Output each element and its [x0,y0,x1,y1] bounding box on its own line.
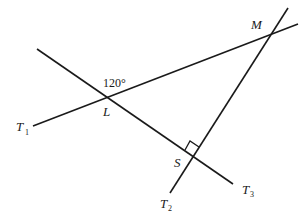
point-label-m: M [250,17,263,32]
svg-text:T: T [160,196,168,211]
point-label-l: L [102,104,110,119]
right-angle-marker [185,141,199,150]
line-label-t1: T 1 [16,119,29,137]
svg-text:2: 2 [168,204,172,213]
line-t3 [37,49,233,184]
svg-text:T: T [16,119,24,134]
line-label-t3: T 3 [242,182,254,199]
svg-text:T: T [242,182,250,197]
line-t1 [33,24,298,126]
svg-text:3: 3 [250,190,254,199]
angle-label-120: 120° [103,76,126,90]
svg-text:1: 1 [25,128,29,137]
point-label-s: S [174,155,181,170]
line-label-t2: T 2 [160,196,172,213]
line-t2 [170,8,288,193]
geometry-diagram: 120° M L S T 1 T 2 T 3 [0,0,306,223]
